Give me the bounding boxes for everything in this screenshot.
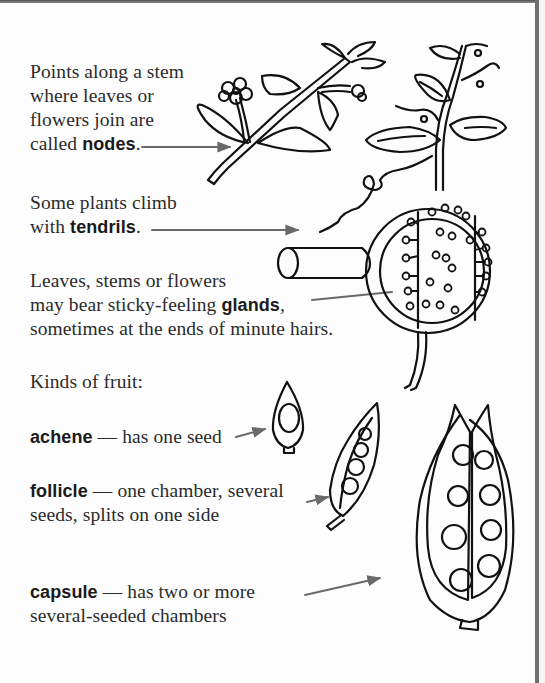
magnifier-glands-drawing <box>278 205 492 391</box>
follicle-drawing <box>327 403 379 530</box>
botany-illustration <box>0 0 545 683</box>
stem-with-nodes-drawing <box>198 42 385 184</box>
pointer-arrows <box>142 147 392 595</box>
achene-drawing <box>273 382 303 453</box>
capsule-drawing <box>417 405 514 630</box>
tendril-plant-drawing <box>320 44 506 232</box>
arrow-capsule <box>305 578 380 595</box>
arrow-follicle <box>307 497 328 502</box>
arrow-achene <box>236 429 265 437</box>
arrow-glands <box>312 292 392 300</box>
